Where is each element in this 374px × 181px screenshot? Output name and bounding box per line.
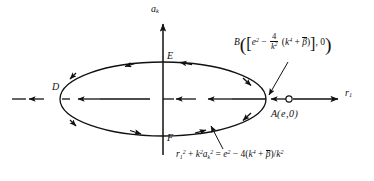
ellipse-flow-arrows xyxy=(70,62,251,134)
equilibrium-point-A-marker xyxy=(286,96,292,102)
point-label-A: A(e,0) xyxy=(271,109,298,119)
annotation-leader-lines xyxy=(211,62,288,149)
point-label-F: F xyxy=(167,133,173,143)
point-label-D: D xyxy=(52,82,59,92)
axis-label-ak: ak xyxy=(151,4,159,15)
annotation-ellipse-equation: r12 + k2ak2 = e2 − 4(k4 + β)/k2 xyxy=(176,150,283,160)
axis-label-r1: r1 xyxy=(345,88,352,99)
horizontal-axis xyxy=(12,96,338,102)
annotation-B-label: B([e2 − 4k2 (k4 + β)], 0) xyxy=(234,32,331,51)
point-label-E: E xyxy=(167,51,173,61)
